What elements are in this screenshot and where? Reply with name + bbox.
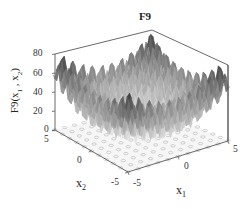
surface-plot — [0, 0, 249, 209]
x1-axis-label: x1 — [176, 183, 186, 199]
x1-tick-5: 5 — [233, 144, 238, 154]
z-tick-20: 20 — [33, 106, 43, 116]
x2-axis-label: x2 — [76, 176, 86, 192]
x2-tick-5: 5 — [44, 134, 49, 144]
z-tick-60: 60 — [33, 68, 43, 78]
x2-tick-neg5: -5 — [111, 177, 119, 187]
z-axis-label: F9(x1 , x2) — [8, 61, 23, 121]
z-tick-0: 0 — [44, 124, 49, 134]
chart-title: F9 — [133, 10, 157, 22]
z-tick-80: 80 — [33, 48, 43, 58]
x2-tick-0: 0 — [77, 155, 82, 165]
x1-tick-0: 0 — [184, 161, 189, 171]
x1-tick-neg5: -5 — [133, 178, 141, 188]
z-tick-40: 40 — [33, 87, 43, 97]
